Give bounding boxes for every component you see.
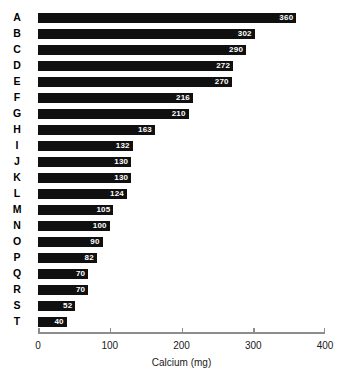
category-label-l: L [2, 188, 32, 199]
category-label-r: R [2, 284, 32, 295]
x-axis-title: Calcium (mg) [38, 357, 325, 368]
bar-row: N100 [38, 220, 325, 236]
category-label-b: B [2, 28, 32, 39]
bar-value-label: 132 [116, 141, 130, 151]
bar-chart: A360B302C290D272E270F216G210H163I132J130… [0, 0, 347, 386]
bar-row: J130 [38, 156, 325, 172]
category-label-d: D [2, 60, 32, 71]
bar-value-label: 105 [96, 205, 110, 215]
bar-value-label: 210 [172, 109, 186, 119]
bar-row: E270 [38, 76, 325, 92]
bar-value-label: 302 [238, 29, 252, 39]
bar-value-label: 216 [176, 93, 190, 103]
x-tick [253, 328, 255, 334]
bar-row: K130 [38, 172, 325, 188]
category-label-s: S [2, 300, 32, 311]
bar-row: Q70 [38, 268, 325, 284]
bar-row: P82 [38, 252, 325, 268]
bar-t: 40 [38, 317, 67, 327]
category-label-j: J [2, 156, 32, 167]
category-label-n: N [2, 220, 32, 231]
category-label-g: G [2, 108, 32, 119]
bar-h: 163 [38, 125, 155, 135]
bar-rows: A360B302C290D272E270F216G210H163I132J130… [38, 12, 325, 332]
bar-row: R70 [38, 284, 325, 300]
x-tick-label: 300 [233, 340, 273, 351]
bar-a: 360 [38, 13, 296, 23]
bar-row: M105 [38, 204, 325, 220]
bar-o: 90 [38, 237, 103, 247]
bar-value-label: 70 [76, 285, 85, 295]
category-label-p: P [2, 252, 32, 263]
bar-row: H163 [38, 124, 325, 140]
bar-value-label: 100 [93, 221, 107, 231]
bar-l: 124 [38, 189, 127, 199]
bar-e: 270 [38, 77, 232, 87]
bar-value-label: 90 [90, 237, 99, 247]
bar-row: F216 [38, 92, 325, 108]
bar-value-label: 70 [76, 269, 85, 279]
bar-row: I132 [38, 140, 325, 156]
bar-b: 302 [38, 29, 255, 39]
bar-value-label: 290 [229, 45, 243, 55]
category-label-f: F [2, 92, 32, 103]
bar-row: D272 [38, 60, 325, 76]
bar-value-label: 130 [114, 173, 128, 183]
bar-n: 100 [38, 221, 110, 231]
bar-value-label: 82 [85, 253, 94, 263]
bar-row: C290 [38, 44, 325, 60]
bar-value-label: 163 [138, 125, 152, 135]
bar-value-label: 270 [215, 77, 229, 87]
category-label-q: Q [2, 268, 32, 279]
bar-row: O90 [38, 236, 325, 252]
bar-row: L124 [38, 188, 325, 204]
bar-value-label: 124 [110, 189, 124, 199]
bar-j: 130 [38, 157, 131, 167]
bar-row: A360 [38, 12, 325, 28]
bar-m: 105 [38, 205, 113, 215]
bar-row: G210 [38, 108, 325, 124]
x-tick-label: 0 [18, 340, 58, 351]
bar-k: 130 [38, 173, 131, 183]
x-tick-label: 400 [305, 340, 345, 351]
category-label-o: O [2, 236, 32, 247]
bar-r: 70 [38, 285, 88, 295]
bar-d: 272 [38, 61, 233, 71]
category-label-c: C [2, 44, 32, 55]
bar-value-label: 130 [114, 157, 128, 167]
x-axis-line [38, 332, 325, 334]
bar-row: B302 [38, 28, 325, 44]
x-tick-label: 200 [162, 340, 202, 351]
bar-value-label: 272 [216, 61, 230, 71]
bar-p: 82 [38, 253, 97, 263]
bar-q: 70 [38, 269, 88, 279]
bar-i: 132 [38, 141, 133, 151]
bar-value-label: 360 [279, 13, 293, 23]
x-tick [182, 328, 184, 334]
x-tick [110, 328, 112, 334]
category-label-i: I [2, 140, 32, 151]
x-tick [324, 328, 326, 334]
bar-value-label: 40 [54, 317, 63, 327]
plot-area: A360B302C290D272E270F216G210H163I132J130… [38, 12, 325, 332]
x-tick-label: 100 [90, 340, 130, 351]
category-label-a: A [2, 12, 32, 23]
category-label-e: E [2, 76, 32, 87]
bar-g: 210 [38, 109, 189, 119]
category-label-k: K [2, 172, 32, 183]
caption-fragment [14, 375, 274, 384]
bar-c: 290 [38, 45, 246, 55]
bar-s: 52 [38, 301, 75, 311]
category-label-t: T [2, 316, 32, 327]
bar-row: S52 [38, 300, 325, 316]
bar-f: 216 [38, 93, 193, 103]
bar-value-label: 52 [63, 301, 72, 311]
x-tick [38, 328, 40, 334]
category-label-h: H [2, 124, 32, 135]
category-label-m: M [2, 204, 32, 215]
